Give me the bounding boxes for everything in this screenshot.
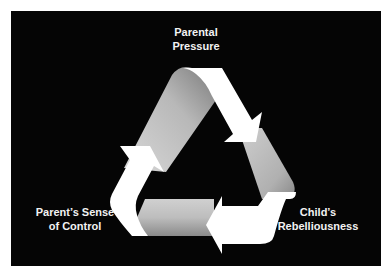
node-label-line: Parent’s Sense (20, 205, 130, 219)
arrow-segment-bottom (135, 199, 214, 236)
node-label-line: Parental (146, 25, 246, 39)
node-parental-pressure: Parental Pressure (146, 25, 246, 53)
node-label-line: Pressure (146, 39, 246, 53)
node-label-line: Child’s (268, 205, 368, 219)
node-label-line: of Control (20, 219, 130, 233)
node-parents-sense-of-control: Parent’s Sense of Control (20, 205, 130, 233)
node-label-line: Rebelliousness (268, 219, 368, 233)
node-childs-rebelliousness: Child’s Rebelliousness (268, 205, 368, 233)
